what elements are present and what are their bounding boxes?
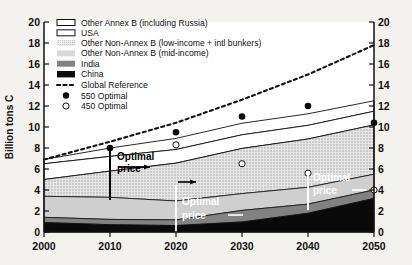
xtick-2050: 2050 — [362, 240, 386, 252]
legend-swatch-mid-income — [57, 50, 75, 56]
annotation-2040-line1: Optimal — [313, 172, 350, 183]
ytick-right-18: 18 — [378, 37, 390, 49]
ytick-right-10: 10 — [378, 121, 390, 133]
xtick-2040: 2040 — [296, 240, 320, 252]
legend-label-usa: USA — [81, 28, 99, 38]
ytick-right-0: 0 — [378, 226, 384, 238]
ytick-right-20: 20 — [378, 16, 390, 28]
legend-swatch-usa — [57, 30, 75, 36]
ytick-left-2: 2 — [34, 205, 40, 217]
xtick-2000: 2000 — [32, 240, 56, 252]
xtick-2030: 2030 — [230, 240, 254, 252]
legend-label-other-annex-b: Other Annex B (including Russia) — [81, 18, 208, 28]
ytick-right-4: 4 — [378, 184, 384, 196]
ytick-right-2: 2 — [378, 205, 384, 217]
legend-label-india: India — [81, 59, 100, 69]
emissions-stacked-area-chart: 0 2 4 6 8 10 12 14 16 18 20 0 2 4 6 8 10… — [0, 0, 412, 265]
legend-label-global-reference: Global Reference — [81, 80, 148, 90]
legend-label-low-income: Other Non-Annex B (low-income + intl bun… — [81, 38, 261, 48]
ytick-left-18: 18 — [28, 37, 40, 49]
annotation-2010-line2: price — [117, 163, 141, 174]
ytick-right-14: 14 — [378, 79, 390, 91]
ytick-left-0: 0 — [34, 226, 40, 238]
ytick-left-10: 10 — [28, 121, 40, 133]
ytick-right-6: 6 — [378, 163, 384, 175]
annotation-2040-line2: price — [313, 185, 337, 196]
legend-swatch-other-annex-b — [57, 20, 75, 26]
xtick-2020: 2020 — [164, 240, 188, 252]
ytick-left-6: 6 — [34, 163, 40, 175]
ytick-left-12: 12 — [28, 100, 40, 112]
legend-swatch-low-income — [57, 40, 75, 46]
annotation-2010-line1: Optimal — [117, 151, 154, 162]
legend-label-450-optimal: 450 Optimal — [81, 101, 127, 111]
y-axis-title: Billion tons C — [4, 95, 15, 159]
annotation-2020-line1: Optimal — [182, 196, 219, 207]
xtick-2010: 2010 — [98, 240, 122, 252]
legend-label-550-optimal: 550 Optimal — [81, 91, 127, 101]
ytick-left-16: 16 — [28, 58, 40, 70]
legend-swatch-450-optimal — [63, 103, 69, 109]
ytick-left-4: 4 — [34, 184, 40, 196]
ytick-right-12: 12 — [378, 100, 390, 112]
legend-label-mid-income: Other Non-Annex B (mid-income) — [81, 48, 209, 58]
ytick-right-16: 16 — [378, 58, 390, 70]
legend-swatch-india — [57, 61, 75, 67]
chart-canvas: 0 2 4 6 8 10 12 14 16 18 20 0 2 4 6 8 10… — [0, 0, 412, 265]
ytick-left-8: 8 — [34, 142, 40, 154]
legend-swatch-550-optimal — [63, 92, 69, 98]
legend-swatch-china — [57, 71, 75, 77]
legend-label-china: China — [81, 69, 104, 79]
ytick-left-14: 14 — [28, 79, 40, 91]
annotation-2020-line2: price — [182, 210, 206, 221]
ytick-right-8: 8 — [378, 142, 384, 154]
ytick-left-20: 20 — [28, 16, 40, 28]
